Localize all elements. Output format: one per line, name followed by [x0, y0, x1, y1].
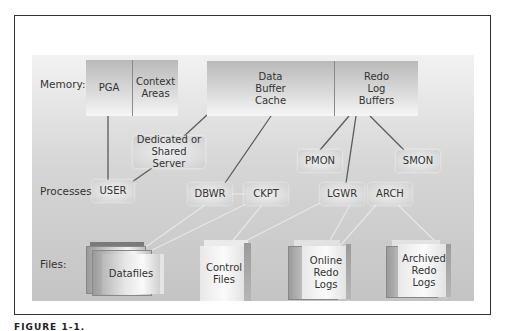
redo-log-buffers-box: Redo Log Buffers: [334, 61, 418, 116]
archived-redo-logs-label: Archived Redo Logs: [400, 253, 448, 289]
user-process-box: USER: [92, 180, 134, 202]
dbwr-process-box: DBWR: [188, 183, 232, 205]
pmon-process-box: PMON: [298, 150, 342, 172]
online-redo-logs-stack: Online Redo Logs: [288, 238, 352, 301]
datafiles-label: Datafiles: [109, 268, 153, 280]
control-files-front: Control Files: [200, 246, 248, 301]
ckpt-process-label: CKPT: [253, 188, 279, 200]
server-process-box: Dedicated or Shared Server: [133, 136, 205, 168]
arch-process-label: ARCH: [376, 188, 404, 200]
archived-redo-logs-stack: Archived Redo Logs: [386, 238, 452, 301]
ckpt-process-box: CKPT: [244, 183, 288, 205]
datafiles-stack: Datafiles: [86, 242, 166, 294]
dbwr-process-label: DBWR: [194, 188, 225, 200]
figure-caption: FIGURE 1-1.: [14, 322, 85, 331]
pga-label: PGA: [99, 82, 120, 94]
row-label-memory: Memory:: [40, 78, 85, 90]
pga-box: PGA: [86, 60, 132, 116]
control-files-label: Control Files: [202, 262, 246, 286]
smon-process-label: SMON: [403, 155, 433, 167]
context-areas-label: Context Areas: [136, 76, 175, 100]
datafiles-front: Datafiles: [102, 254, 160, 294]
control-files-cube: Control Files: [200, 240, 255, 301]
data-buffer-cache-box: Data Buffer Cache: [207, 61, 334, 116]
smon-process-box: SMON: [396, 150, 440, 172]
arch-process-box: ARCH: [368, 183, 412, 205]
lgwr-process-box: LGWR: [320, 183, 364, 205]
context-areas-box: Context Areas: [132, 60, 178, 116]
data-buffer-cache-label: Data Buffer Cache: [247, 71, 294, 107]
online-redo-logs-label: Online Redo Logs: [304, 255, 348, 291]
archived-redo-logs-front: Archived Redo Logs: [398, 244, 450, 297]
row-label-processes: Processes:: [40, 185, 95, 197]
online-redo-logs-front: Online Redo Logs: [302, 246, 350, 299]
redo-log-buffers-label: Redo Log Buffers: [357, 71, 396, 107]
server-process-label: Dedicated or Shared Server: [136, 134, 202, 170]
pmon-process-label: PMON: [305, 155, 335, 167]
lgwr-process-label: LGWR: [327, 188, 357, 200]
row-label-files: Files:: [40, 258, 67, 270]
user-process-label: USER: [100, 185, 127, 197]
